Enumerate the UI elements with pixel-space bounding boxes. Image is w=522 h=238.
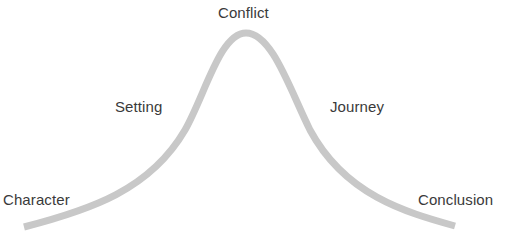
label-conclusion: Conclusion xyxy=(418,191,493,209)
label-setting: Setting xyxy=(115,98,162,116)
label-journey: Journey xyxy=(330,98,384,116)
label-character: Character xyxy=(3,191,70,209)
label-conflict: Conflict xyxy=(218,4,269,22)
story-arc-curve xyxy=(24,33,455,227)
story-arc-diagram: Conflict Setting Journey Character Concl… xyxy=(0,0,522,238)
